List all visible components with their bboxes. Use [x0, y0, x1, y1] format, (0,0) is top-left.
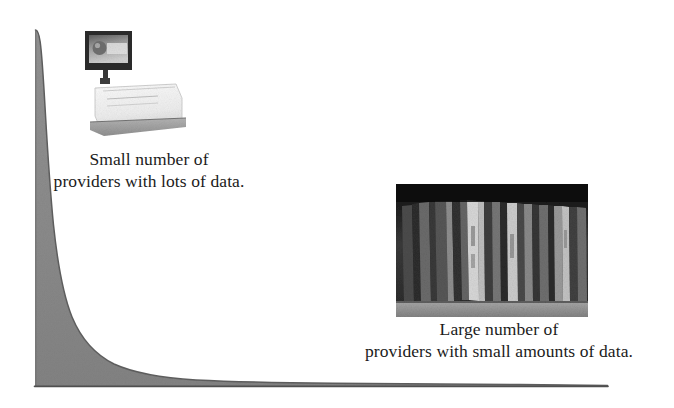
caption-instrument-line-1: Small number of	[14, 148, 284, 170]
caption-small-number-of-providers: Small number of providers with lots of d…	[14, 148, 284, 193]
caption-books-line-2: providers with small amounts of data.	[334, 340, 664, 362]
book-spines-group	[402, 200, 587, 304]
caption-books-line-1: Large number of	[334, 318, 664, 340]
figure-canvas: Small number of providers with lots of d…	[0, 0, 674, 408]
caption-large-number-of-providers: Large number of providers with small amo…	[334, 318, 664, 363]
screen-bright-panel-icon	[107, 43, 127, 54]
lab-instrument-photo	[74, 26, 192, 144]
screen-sphere-icon	[93, 41, 107, 55]
shelf-board-edge-icon	[396, 301, 588, 303]
screen-sphere-highlight-icon	[95, 43, 100, 48]
shelf-board-icon	[396, 301, 588, 317]
monitor-mount-foot-icon	[100, 78, 110, 84]
bookshelf-photo	[396, 184, 588, 317]
shelf-top-shadow-icon	[396, 184, 588, 202]
caption-instrument-line-2: providers with lots of data.	[14, 170, 284, 192]
